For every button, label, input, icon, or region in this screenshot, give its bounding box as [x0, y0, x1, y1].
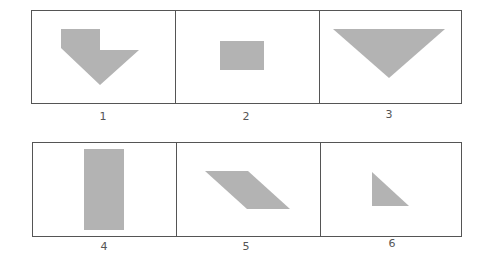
shapes-figure [0, 0, 483, 267]
shape-4-rectangle [84, 149, 124, 230]
shape-6-triangle [372, 172, 409, 206]
panel-label-4: 4 [101, 241, 108, 252]
panel-label-2: 2 [243, 111, 250, 122]
shape-1-pentagon [61, 29, 139, 85]
panel-label-6: 6 [389, 238, 396, 249]
panel-label-5: 5 [243, 241, 250, 252]
panel-label-1: 1 [100, 111, 107, 122]
panel-label-3: 3 [386, 109, 393, 120]
shape-5-parallelogram [205, 171, 290, 209]
shape-3-triangle [333, 29, 445, 78]
shape-2-rectangle [220, 41, 264, 70]
